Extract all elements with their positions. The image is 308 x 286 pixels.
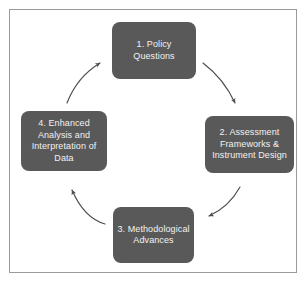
arrow-2-to-3 [209, 187, 240, 216]
arrow-3-to-4 [72, 190, 105, 224]
process-node-enhanced-analysis[interactable]: 4. Enhanced Analysis and Interpretation … [21, 111, 107, 171]
process-node-policy-questions[interactable]: 1. Policy Questions [112, 22, 196, 79]
process-node-methodological-advances[interactable]: 3. Methodological Advances [113, 207, 194, 263]
cycle-diagram-figure: 1. Policy Questions 2. Assessment Framew… [0, 0, 308, 286]
arrow-1-to-2 [203, 63, 235, 103]
arrow-4-to-1 [67, 63, 100, 103]
process-node-assessment-frameworks[interactable]: 2. Assessment Frameworks & Instrument De… [205, 116, 294, 173]
